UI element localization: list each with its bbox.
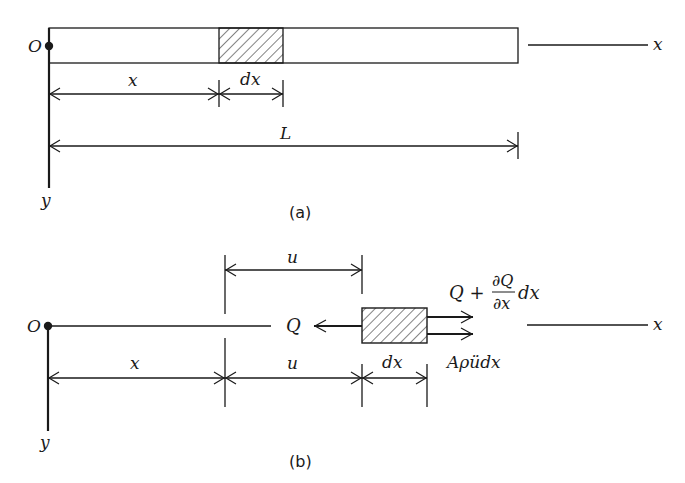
inertia-force-label: Aρüdx xyxy=(445,352,501,372)
svg-text:∂x: ∂x xyxy=(493,294,510,313)
length-label: L xyxy=(279,123,291,143)
y-axis-label: y xyxy=(40,190,51,210)
left-force-label: Q xyxy=(286,315,301,336)
panel-a: O x y x dx L (a) xyxy=(28,28,663,222)
svg-text:∂Q: ∂Q xyxy=(492,271,513,290)
displacement-top-label: u xyxy=(287,247,298,267)
bar-vibration-diagram: O x y x dx L (a) O y x xyxy=(0,0,685,483)
x-axis-label: x xyxy=(653,34,663,54)
y-axis-label: y xyxy=(39,432,50,452)
position-label: x xyxy=(130,353,140,373)
panel-b: O y x u Q Q + ∂Q ∂x dx Aρüdx xyxy=(27,247,663,471)
panel-a-caption: (a) xyxy=(289,203,311,222)
panel-b-caption: (b) xyxy=(289,452,312,471)
origin-label: O xyxy=(27,316,41,336)
origin-dot xyxy=(45,42,53,50)
x-axis-label: x xyxy=(653,314,663,334)
origin-label: O xyxy=(28,36,42,56)
origin-dot xyxy=(44,322,52,330)
element-width-label: dx xyxy=(240,69,261,89)
hatched-element xyxy=(362,308,427,343)
element-width-label: dx xyxy=(382,352,403,372)
displacement-bottom-label: u xyxy=(287,353,298,373)
hatched-element xyxy=(219,28,283,63)
right-force-label: Q + ∂Q ∂x dx xyxy=(449,271,540,313)
position-label: x xyxy=(128,70,138,90)
svg-text:Q +: Q + xyxy=(449,282,485,303)
svg-text:dx: dx xyxy=(518,282,540,303)
